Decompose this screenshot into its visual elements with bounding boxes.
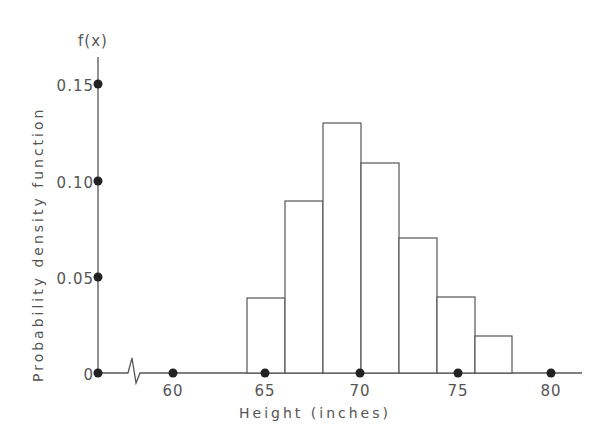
bar-74-76 xyxy=(437,297,475,373)
x-tick-label: 65 xyxy=(254,382,275,400)
bar-70-72 xyxy=(361,163,399,373)
bar-72-74 xyxy=(399,238,437,373)
x-tick-dot-75 xyxy=(454,369,463,378)
histogram-chart: Probability density function f(x) 0 0.05… xyxy=(0,0,607,443)
y-tick-label: 0 xyxy=(83,366,94,384)
x-tick-dot-80 xyxy=(547,369,556,378)
x-tick-label: 75 xyxy=(447,382,468,400)
y-axis-title: Probability density function xyxy=(30,107,46,382)
bar-66-68 xyxy=(285,201,323,373)
y-axis-symbol: f(x) xyxy=(78,32,108,50)
bar-64-66 xyxy=(247,298,285,373)
y-tick-dot-0 xyxy=(94,369,103,378)
x-tick-label: 80 xyxy=(540,382,561,400)
y-tick-label: 0.05 xyxy=(57,270,94,288)
x-axis-title: Height (inches) xyxy=(239,405,391,421)
bar-68-70 xyxy=(323,123,361,373)
x-tick-dot-60 xyxy=(169,369,178,378)
y-tick-dot-0.10 xyxy=(94,177,103,186)
x-tick-dot-65 xyxy=(261,369,270,378)
x-tick-dot-70 xyxy=(356,369,365,378)
y-tick-label: 0.10 xyxy=(57,174,94,192)
y-tick-dot-0.15 xyxy=(94,80,103,89)
bar-76-78 xyxy=(475,336,512,373)
y-tick-dot-0.05 xyxy=(94,273,103,282)
histogram-bars xyxy=(247,123,512,373)
y-tick-label: 0.15 xyxy=(57,77,94,95)
x-tick-label: 60 xyxy=(162,382,183,400)
x-tick-label: 70 xyxy=(349,382,370,400)
